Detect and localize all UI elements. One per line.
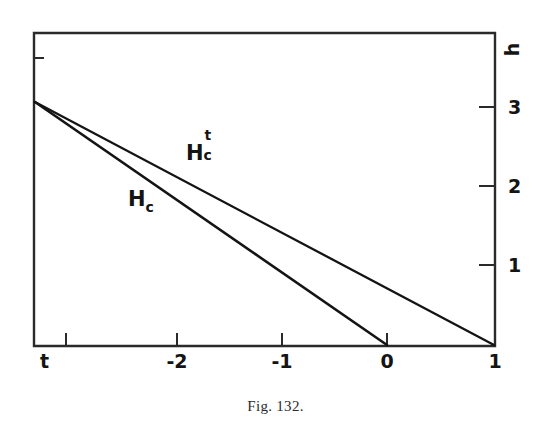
figure-container: -2 -1 0 1 3 2 1 t h Htc Hc Fig. 132. <box>0 0 551 428</box>
curve-label-hc-sub: c <box>146 199 154 215</box>
y-tick-label-3: 3 <box>508 98 521 117</box>
axis-frame <box>34 33 495 346</box>
curve-label-hct-affixes: tc <box>204 139 218 160</box>
y-tick-label-2: 2 <box>508 177 521 196</box>
curve-label-hct-sub: c <box>204 148 212 162</box>
x-tick-label--1: -1 <box>271 352 292 371</box>
x-tick-label-1: 1 <box>488 352 501 371</box>
y-axis-ticks <box>479 107 495 265</box>
y-axis-name: h <box>503 43 522 57</box>
curve-label-hc-base: H <box>128 187 146 211</box>
curve-label-hc: Hc <box>128 189 154 210</box>
curve-label-hct: Htc <box>186 139 218 164</box>
series-line-hct <box>35 102 494 345</box>
y-tick-label-1: 1 <box>508 256 521 275</box>
curve-label-hct-sup: t <box>205 128 212 142</box>
x-axis-ticks <box>66 333 387 346</box>
figure-caption: Fig. 132. <box>0 398 551 415</box>
x-axis-name: t <box>40 352 49 371</box>
curve-label-hct-base: H <box>186 141 204 165</box>
x-tick-label-0: 0 <box>380 352 393 371</box>
x-tick-label--2: -2 <box>166 352 187 371</box>
